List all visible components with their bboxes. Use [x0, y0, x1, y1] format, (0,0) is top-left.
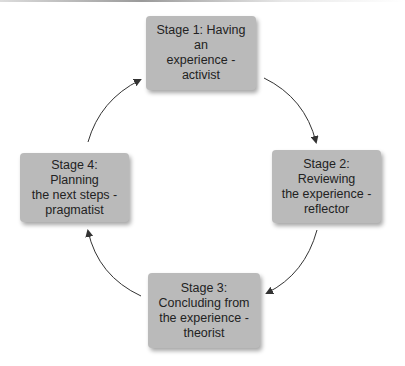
stage-3-line-2: Concluding from: [158, 296, 249, 311]
arrow-stage1-to-stage2: [264, 78, 316, 142]
stage-1-box: Stage 1: Having an experience - activist: [146, 16, 256, 90]
stage-3-line-1: Stage 3:: [158, 281, 249, 296]
stage-4-line-1: Stage 4: Planning: [26, 158, 123, 188]
stage-2-box: Stage 2: Reviewing the experience - refl…: [272, 150, 381, 223]
arrow-stage4-to-stage1: [88, 80, 140, 142]
arrow-stage2-to-stage3: [267, 230, 317, 293]
stage-2-line-2: the experience -: [278, 187, 375, 202]
stage-3-line-3: the experience -: [158, 311, 249, 326]
stage-4-box: Stage 4: Planning the next steps - pragm…: [20, 153, 129, 222]
stage-1-line-3: activist: [152, 68, 250, 83]
stage-1-line-2: experience -: [152, 53, 250, 68]
stage-1-line-1: Stage 1: Having an: [152, 23, 250, 53]
stage-3-line-4: theorist: [158, 326, 249, 341]
stage-4-line-2: the next steps -: [26, 188, 123, 203]
stage-3-box: Stage 3: Concluding from the experience …: [148, 273, 260, 348]
stage-2-line-3: reflector: [278, 202, 375, 217]
stage-4-line-3: pragmatist: [26, 203, 123, 218]
arrow-stage3-to-stage4: [88, 231, 141, 296]
stage-2-line-1: Stage 2: Reviewing: [278, 157, 375, 187]
